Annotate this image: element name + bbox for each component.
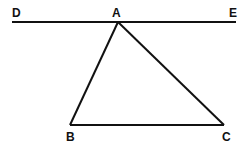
label-B: B xyxy=(66,130,75,144)
label-D: D xyxy=(12,6,21,20)
geometry-diagram: D A E B C xyxy=(0,0,248,151)
segment-AC xyxy=(118,22,224,125)
label-C: C xyxy=(222,130,231,144)
segment-AB xyxy=(70,22,118,125)
label-E: E xyxy=(229,6,237,20)
label-A: A xyxy=(112,6,121,20)
